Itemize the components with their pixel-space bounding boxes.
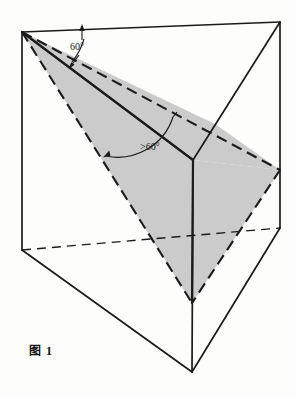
figure-container: 60° >60° 图 1 (0, 0, 297, 397)
section-fold-front-vertical (192, 160, 193, 303)
edge-top-back (22, 22, 280, 32)
angle-label-middle: >60° (140, 141, 160, 152)
angle-arrowhead-top-up (79, 24, 84, 31)
prism-diagram (0, 0, 297, 397)
angle-label-top: 60° (70, 41, 84, 52)
figure-caption: 图 1 (29, 341, 53, 359)
section-plane-shading (22, 32, 280, 303)
